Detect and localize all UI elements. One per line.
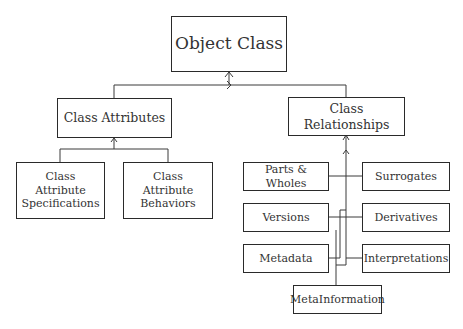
metadata-label: Metadata: [259, 252, 312, 266]
interpretations-label: Interpretations: [364, 252, 449, 266]
class-attribute-specifications-label: Class Attribute Specifications: [21, 170, 99, 211]
object-class-node: Object Class: [171, 16, 287, 72]
parts-wholes-node: Parts & Wholes: [243, 162, 329, 191]
class-relationships-label: Class Relationships: [303, 101, 390, 132]
versions-node: Versions: [243, 203, 329, 232]
class-relationships-node: Class Relationships: [288, 97, 405, 136]
versions-label: Versions: [262, 211, 309, 225]
class-attributes-label: Class Attributes: [64, 110, 166, 126]
surrogates-label: Surrogates: [375, 170, 437, 184]
metadata-node: Metadata: [243, 244, 329, 273]
metainformation-node: MetaInformation: [293, 285, 382, 314]
parts-wholes-label: Parts & Wholes: [244, 163, 328, 191]
class-attribute-behaviors-label: Class Attribute Behaviors: [130, 170, 206, 211]
class-attribute-specifications-node: Class Attribute Specifications: [16, 162, 105, 219]
class-attribute-behaviors-node: Class Attribute Behaviors: [123, 162, 213, 219]
derivatives-label: Derivatives: [374, 211, 437, 225]
interpretations-node: Interpretations: [362, 244, 450, 273]
class-attributes-node: Class Attributes: [57, 98, 172, 138]
derivatives-node: Derivatives: [362, 203, 450, 232]
metainformation-label: MetaInformation: [290, 293, 385, 307]
surrogates-node: Surrogates: [362, 162, 450, 191]
object-class-label: Object Class: [175, 33, 283, 54]
